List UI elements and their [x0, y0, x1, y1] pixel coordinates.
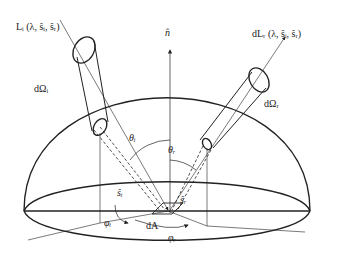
- base-ellipse-front: [24, 211, 310, 240]
- hemisphere-dome: [24, 98, 310, 211]
- theta-i-arc: [130, 140, 170, 160]
- reflected-zenith-label: θᵣ: [168, 145, 175, 155]
- reflected-azimuth-label: φᵣ: [168, 233, 176, 243]
- normal-label: n̂: [165, 28, 170, 38]
- incident-azimuth-label: φᵢ: [104, 218, 111, 228]
- area-element-label: dA: [146, 221, 158, 231]
- hemisphere-diagram: n̂ Lᵢ (λ, ŝᵢ, ŝᵣ) dLᵣ (λ, ŝᵢ, ŝᵣ) dΩᵢ dΩ…: [0, 0, 339, 265]
- reflected-solid-angle-label: dΩᵣ: [264, 99, 279, 109]
- incident-radiance-label: Lᵢ (λ, ŝᵢ, ŝᵣ): [16, 22, 59, 32]
- reflected-radiance-label: dLᵣ (λ, ŝᵢ, ŝᵣ): [252, 29, 301, 39]
- incident-zenith-label: θᵢ: [129, 133, 136, 143]
- incident-solid-angle-label: dΩᵢ: [34, 84, 48, 94]
- reflected-direction-label: ŝᵣ: [180, 195, 186, 205]
- base-ellipse-back: [24, 182, 310, 211]
- diagram-graphics: [0, 0, 339, 265]
- incident-direction-label: ŝᵢ: [117, 188, 122, 198]
- phi-r-arc: [135, 220, 188, 228]
